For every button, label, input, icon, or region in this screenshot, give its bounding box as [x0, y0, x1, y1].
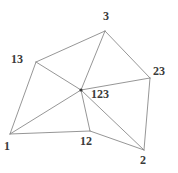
- vertex-label-23: 23: [153, 65, 165, 77]
- edge-13-1: [10, 62, 36, 134]
- vertex-label-13: 13: [11, 53, 23, 65]
- vertex-label-1: 1: [4, 140, 10, 152]
- vertex-label-2: 2: [140, 154, 146, 166]
- vertex-label-12: 12: [80, 135, 92, 147]
- edge-12-2: [90, 131, 144, 150]
- edge-1-123: [10, 90, 81, 134]
- vertex-group: [79, 88, 82, 91]
- edge-1-12: [10, 131, 90, 134]
- diagram-canvas: 313231231122: [0, 0, 178, 173]
- edge-3-23: [105, 31, 150, 78]
- vertex-dot-123: [79, 88, 82, 91]
- edge-12-123: [81, 90, 90, 131]
- vertex-label-123: 123: [91, 88, 109, 100]
- edge-13-123: [36, 62, 81, 90]
- edge-2-23: [144, 78, 150, 150]
- vertex-label-3: 3: [103, 10, 109, 22]
